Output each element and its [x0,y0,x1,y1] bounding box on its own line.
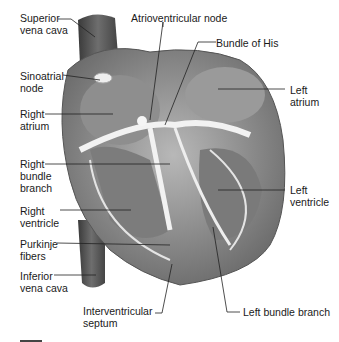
label-right-atrium: Right atrium [20,108,49,132]
label-left-bundle-branch: Left bundle branch [243,306,330,318]
label-superior-vena-cava: Superior vena cava [20,12,68,36]
label-right-bundle-branch: Right bundle branch [20,158,52,194]
label-bundle-of-his: Bundle of His [216,37,278,49]
label-left-ventricle: Left ventricle [290,184,329,208]
label-interventricular-septum: Interventricular septum [83,305,152,329]
label-atrioventricular-node: Atrioventricular node [131,12,227,24]
label-sinoatrial-node: Sinoatrial node [20,70,64,94]
label-left-atrium: Left atrium [290,84,319,108]
label-inferior-vena-cava: Inferior vena cava [20,270,68,294]
label-right-ventricle: Right ventricle [20,205,59,229]
label-purkinje-fibers: Purkinje fibers [20,238,58,262]
